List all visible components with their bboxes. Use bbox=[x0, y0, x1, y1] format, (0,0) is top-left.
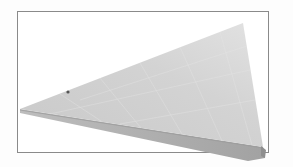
wedge-scene bbox=[0, 0, 293, 167]
surface-mark bbox=[66, 90, 69, 93]
